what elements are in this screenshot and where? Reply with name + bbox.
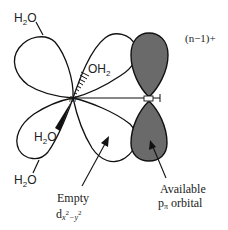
- metal-label: M: [69, 94, 77, 104]
- orbital-diagram: M H2O OH2 H2O H2O (n−1)+ Empty dx2−y2 Av…: [0, 0, 228, 230]
- p-lobe-upper: [131, 33, 168, 96]
- ligand-label-bottom-left: H2O: [14, 173, 36, 189]
- e-atom-marker: [144, 96, 153, 101]
- available-label: Available: [160, 182, 206, 196]
- ligand-label-top-left: H2O: [14, 11, 36, 27]
- dx2-y2-label: dx2−y2: [56, 207, 82, 222]
- d-lobe-lower-right: [73, 98, 136, 162]
- p-pi-orbital-label: pπ orbital: [158, 196, 203, 211]
- p-lobe-lower: [131, 102, 167, 161]
- empty-orbital-label: Empty: [57, 191, 89, 205]
- ligand-bond-top-left: [36, 22, 43, 35]
- d-lobe-lower-left: [17, 98, 73, 159]
- d-lobe-upper-left: [14, 37, 73, 98]
- ligand-bond-bottom-left: [33, 160, 39, 173]
- charge-label: (n−1)+: [185, 32, 216, 45]
